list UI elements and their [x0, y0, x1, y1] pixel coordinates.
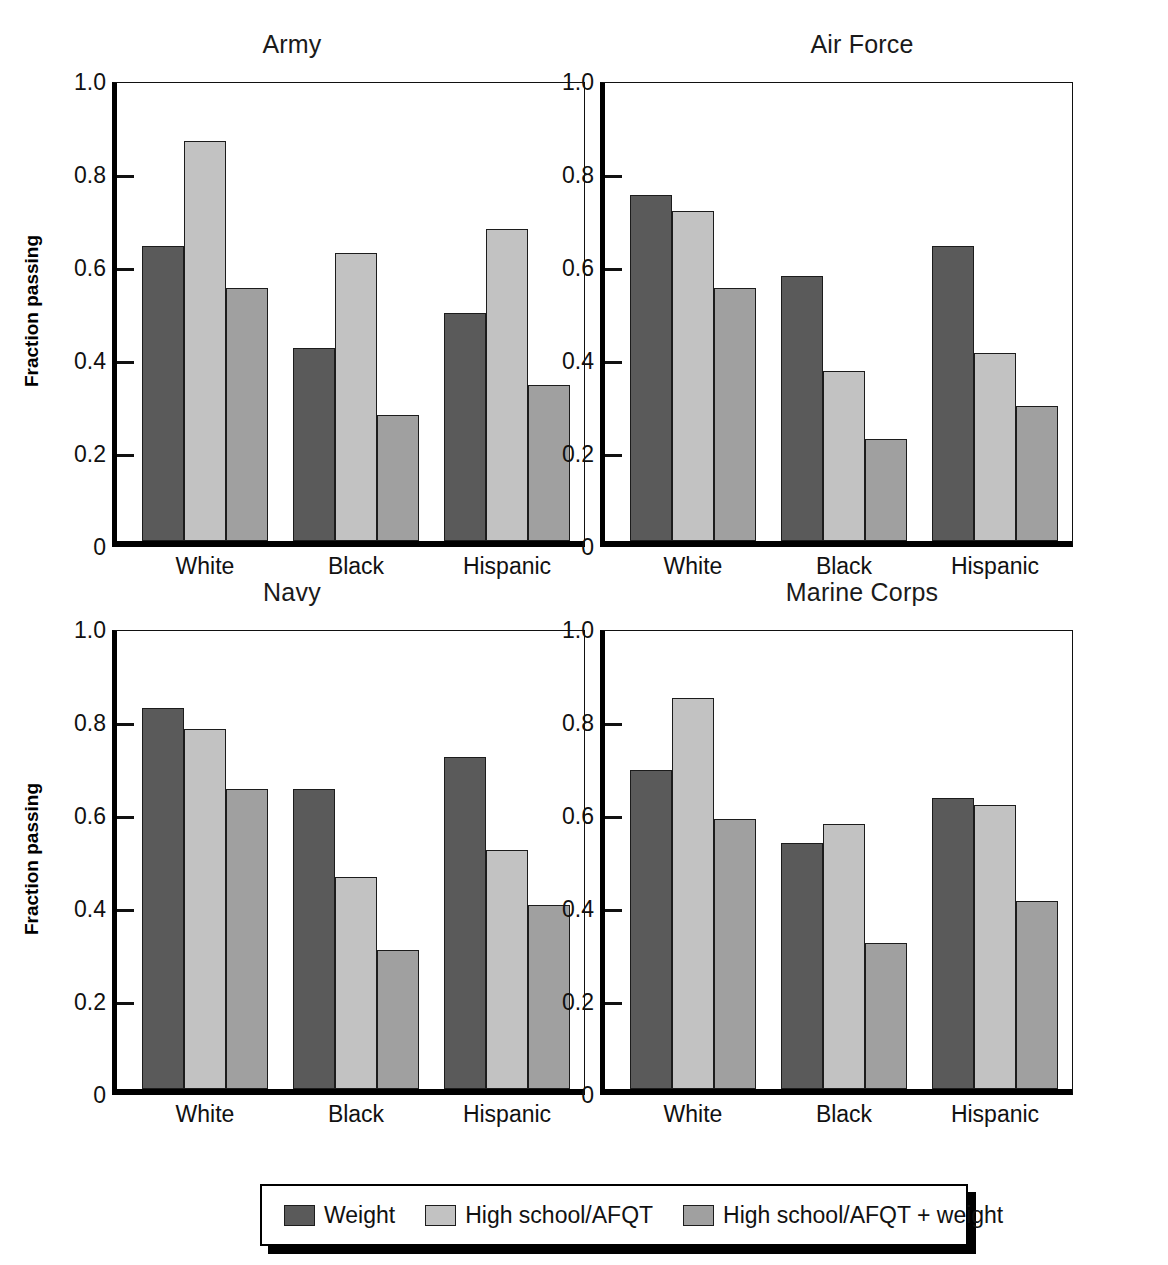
bar [377, 415, 419, 541]
chart-panel-navy: NavyFraction passing00.20.40.60.81.0Whit… [0, 548, 584, 1128]
bar [974, 805, 1016, 1089]
bar [672, 698, 714, 1089]
panel-title: Army [0, 30, 584, 59]
bar-group [932, 631, 1058, 1089]
bar [377, 950, 419, 1090]
bar [1016, 901, 1058, 1089]
y-tick-label: 1.0 [562, 69, 594, 95]
y-tick-label: 0.2 [74, 441, 106, 467]
bar [714, 288, 756, 541]
bar-group [932, 83, 1058, 541]
y-tick-label: 0 [93, 1082, 106, 1108]
chart-panel-grid: ArmyFraction passing00.20.40.60.81.0Whit… [0, 0, 1168, 1160]
legend-label: High school/AFQT [465, 1204, 653, 1227]
bar [823, 824, 865, 1089]
y-axis-label: Fraction passing [21, 739, 43, 979]
bar-group [630, 83, 756, 541]
y-tick-label: 0.4 [562, 348, 594, 374]
panel-title: Air Force [600, 30, 1124, 59]
x-axis-labels: WhiteBlackHispanic [605, 1089, 1072, 1129]
y-tick-label: 0.8 [562, 710, 594, 736]
bar [142, 246, 184, 541]
y-tick-label: 1.0 [74, 69, 106, 95]
y-tick-label: 0.4 [562, 896, 594, 922]
y-tick-label: 0.6 [74, 255, 106, 281]
y-tick-label: 1.0 [562, 617, 594, 643]
chart-legend: WeightHigh school/AFQTHigh school/AFQT +… [260, 1184, 968, 1246]
y-tick-label: 0.6 [562, 803, 594, 829]
legend-swatch [683, 1205, 714, 1226]
bar [335, 877, 377, 1089]
bar [184, 729, 226, 1089]
x-axis-label: Black [759, 1101, 929, 1128]
bar [672, 211, 714, 541]
bar [630, 770, 672, 1089]
x-axis-label: White [120, 1101, 290, 1128]
bars-layer [117, 631, 584, 1089]
plot-area: 00.20.40.60.81.0WhiteBlackHispanic [600, 82, 1073, 547]
bar-group [293, 83, 419, 541]
bar-group [142, 631, 268, 1089]
x-axis-label: Hispanic [910, 1101, 1080, 1128]
bar [974, 353, 1016, 541]
chart-panel-marine-corps: Marine Corps00.20.40.60.81.0WhiteBlackHi… [540, 548, 1124, 1128]
bar-group [293, 631, 419, 1089]
plot-area: 00.20.40.60.81.0WhiteBlackHispanic [600, 630, 1073, 1095]
y-tick-label: 0.4 [74, 348, 106, 374]
legend-item: Weight [284, 1204, 395, 1227]
bars-layer [605, 631, 1072, 1089]
bar [444, 757, 486, 1089]
y-tick-label: 0.8 [562, 162, 594, 188]
bar [184, 141, 226, 541]
bar [932, 246, 974, 541]
plot-area: 00.20.40.60.81.0WhiteBlackHispanic [112, 82, 585, 547]
plot-area: 00.20.40.60.81.0WhiteBlackHispanic [112, 630, 585, 1095]
y-tick-label: 0 [581, 1082, 594, 1108]
y-tick-label: 0.6 [562, 255, 594, 281]
panel-title: Marine Corps [600, 578, 1124, 607]
bar [630, 195, 672, 541]
legend-swatch [425, 1205, 456, 1226]
y-tick-label: 0.4 [74, 896, 106, 922]
bar [1016, 406, 1058, 541]
y-tick-label: 0.8 [74, 710, 106, 736]
legend-label: High school/AFQT + weight [723, 1204, 1003, 1227]
bar-group [142, 83, 268, 541]
y-tick-label: 1.0 [74, 617, 106, 643]
bar [781, 276, 823, 541]
legend-label: Weight [324, 1204, 395, 1227]
bar [714, 819, 756, 1089]
bar [293, 348, 335, 541]
x-axis-label: White [608, 1101, 778, 1128]
bar [335, 253, 377, 541]
bar [486, 229, 528, 541]
legend-swatch [284, 1205, 315, 1226]
chart-panel-air-force: Air Force00.20.40.60.81.0WhiteBlackHispa… [540, 0, 1124, 580]
bar [226, 288, 268, 541]
bar-group [781, 631, 907, 1089]
y-tick-label: 0.8 [74, 162, 106, 188]
bar-group [781, 83, 907, 541]
bar [865, 943, 907, 1089]
bar [486, 850, 528, 1089]
x-axis-labels: WhiteBlackHispanic [117, 1089, 584, 1129]
y-tick-label: 0.2 [562, 441, 594, 467]
bars-layer [117, 83, 584, 541]
y-axis-label: Fraction passing [21, 191, 43, 431]
y-tick-label: 0.2 [562, 989, 594, 1015]
bar [293, 789, 335, 1089]
legend-item: High school/AFQT + weight [683, 1204, 1003, 1227]
panel-title: Navy [0, 578, 584, 607]
bar [823, 371, 865, 541]
bar [865, 439, 907, 541]
bar-group [630, 631, 756, 1089]
y-tick-label: 0.6 [74, 803, 106, 829]
bar [444, 313, 486, 541]
chart-panel-army: ArmyFraction passing00.20.40.60.81.0Whit… [0, 0, 584, 580]
bar [932, 798, 974, 1089]
legend-item: High school/AFQT [425, 1204, 653, 1227]
x-axis-label: Black [271, 1101, 441, 1128]
bars-layer [605, 83, 1072, 541]
y-tick-label: 0.2 [74, 989, 106, 1015]
bar [781, 843, 823, 1089]
